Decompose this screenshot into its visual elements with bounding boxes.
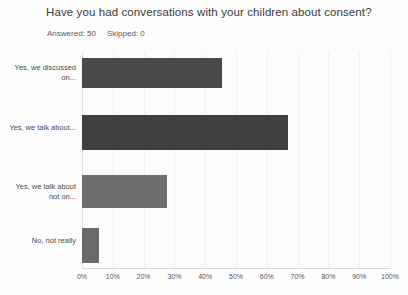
bar-row[interactable] <box>82 228 390 263</box>
bar[interactable] <box>82 58 222 88</box>
x-axis-tick-label: 30% <box>161 273 187 280</box>
bar-row[interactable] <box>82 115 390 150</box>
bar[interactable] <box>82 228 99 263</box>
bar-row[interactable] <box>82 175 390 208</box>
category-label: Yes, we discussed on... <box>4 63 76 83</box>
x-axis-tick-label: 70% <box>285 273 311 280</box>
x-axis-tick-label: 40% <box>192 273 218 280</box>
x-axis-tick-label: 80% <box>315 273 341 280</box>
bar[interactable] <box>82 115 288 150</box>
x-axis-tick-label: 0% <box>69 273 95 280</box>
bar[interactable] <box>82 175 167 208</box>
category-label: Yes, we talk about not on... <box>4 182 76 202</box>
answered-count: Answered: 50 <box>47 29 96 38</box>
page-title: Have you had conversations with your chi… <box>46 6 372 18</box>
x-axis-tick-label: 10% <box>100 273 126 280</box>
gridline <box>390 52 391 268</box>
category-label: No, not really <box>4 236 76 246</box>
x-axis-tick-label: 20% <box>131 273 157 280</box>
skipped-count: Skipped: 0 <box>107 29 145 38</box>
survey-result-card: Have you had conversations with your chi… <box>0 0 408 295</box>
x-axis-tick-label: 90% <box>346 273 372 280</box>
response-summary: Answered: 50Skipped: 0 <box>47 29 145 38</box>
category-label: Yes, we talk about... <box>4 123 76 133</box>
x-axis-tick-label: 50% <box>223 273 249 280</box>
x-axis-baseline <box>82 268 391 269</box>
bar-row[interactable] <box>82 58 390 88</box>
x-axis-tick-label: 60% <box>254 273 280 280</box>
x-axis-tick-label: 100% <box>377 273 403 280</box>
bar-chart-plot-area <box>82 52 390 268</box>
